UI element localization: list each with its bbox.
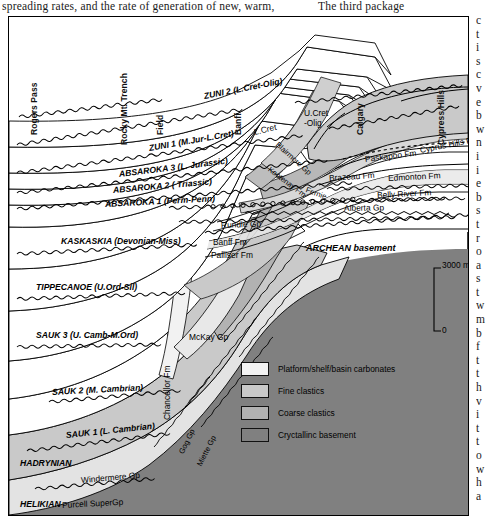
formation-label: Rundle Gp	[221, 219, 261, 230]
formation-label: Chancellor Fm	[162, 366, 172, 420]
formation-label: Alberta Gp	[344, 202, 384, 213]
legend-row: Cryctallinc basement	[241, 425, 451, 444]
legend-label: Fine clastics	[278, 386, 324, 396]
location-label: Cypress Hills	[436, 90, 446, 145]
legend-swatch	[241, 362, 269, 376]
location-label: Calgary	[355, 103, 365, 135]
formation-label: U.Cret -Olig	[304, 109, 328, 128]
legend-swatch	[241, 406, 269, 420]
scale-top-label: 3000 m	[442, 260, 469, 270]
running-text-right-column: c t i s c v e b w n i i e b s t r o a s …	[476, 14, 492, 520]
legend-label: Coarse clastics	[278, 408, 335, 418]
legend-row: Platform/shelf/basin carbonates	[241, 359, 451, 378]
sequence-label: HELIKIAN	[20, 499, 61, 509]
location-label: Banff	[233, 113, 243, 135]
legend-swatch	[241, 384, 269, 398]
location-label: Rocky Mt. Trench	[119, 73, 129, 145]
formation-label: ARCHEAN basement	[306, 243, 396, 253]
geologic-cross-section-figure: Rogers PassRocky Mt. TrenchFieldBanffCal…	[8, 16, 469, 516]
legend-row: Coarse clastics	[241, 403, 451, 422]
formation-label: Banff Fm	[213, 237, 247, 247]
running-text-right: The third package	[318, 0, 404, 12]
sequence-label: TIPPECANOE (U.Ord-Sil)	[36, 282, 137, 292]
location-label: Field	[155, 115, 165, 135]
legend-swatch	[241, 428, 269, 442]
formation-label: McKay Gp	[189, 332, 228, 342]
running-text-left: spreading rates, and the rate of generat…	[2, 0, 302, 12]
scale-bar-glyph	[430, 265, 469, 337]
scale-bottom-label: 0	[442, 325, 447, 335]
sequence-label: KASKASKIA (Devonian-Miss)	[61, 236, 181, 246]
figure-page: spreading rates, and the rate of generat…	[0, 0, 492, 520]
legend-label: Platform/shelf/basin carbonates	[278, 364, 395, 374]
scale-bar: 3000 m 0	[430, 265, 469, 337]
location-label: Rogers Pass	[29, 82, 39, 135]
sequence-label: SAUK 3 (U. Camb-M.Ord)	[36, 330, 138, 340]
legend: Platform/shelf/basin carbonatesFine clas…	[241, 359, 451, 447]
legend-row: Fine clastics	[241, 381, 451, 400]
sequence-label: HADRYNIAN	[20, 458, 71, 468]
legend-label: Cryctallinc basement	[278, 430, 356, 440]
formation-label: Palliser Fm	[211, 250, 253, 260]
